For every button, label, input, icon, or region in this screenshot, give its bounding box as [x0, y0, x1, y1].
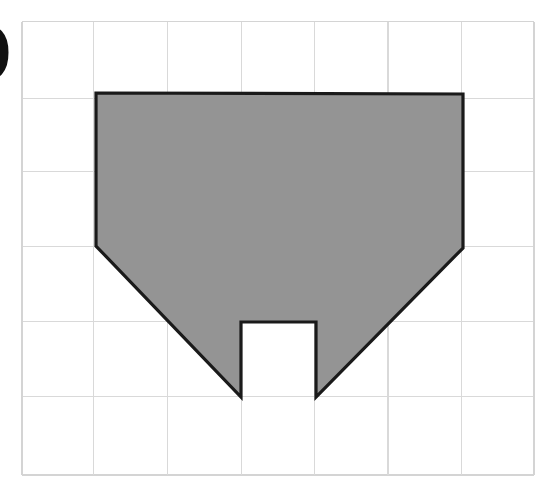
grid-figure-svg [0, 0, 540, 484]
figure-root: ) [0, 0, 540, 484]
shaded-polygon [96, 93, 463, 397]
